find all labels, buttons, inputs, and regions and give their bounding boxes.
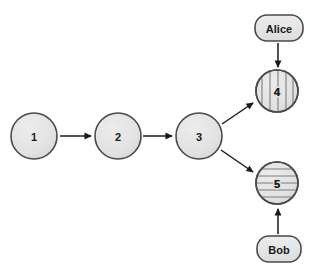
commit-node-2[interactable]: 2 bbox=[95, 113, 141, 159]
commit-node-2-label: 2 bbox=[115, 131, 121, 143]
edge-node3-to-node5 bbox=[221, 150, 253, 172]
edge-node3-to-node4 bbox=[222, 103, 253, 124]
commit-node-1[interactable]: 1 bbox=[11, 113, 57, 159]
diagram-svg: 1 2 3 4 4 bbox=[0, 0, 315, 267]
commit-node-5-label: 5 bbox=[274, 178, 280, 190]
actor-node-alice[interactable]: Alice bbox=[255, 15, 303, 41]
actor-alice-label: Alice bbox=[266, 23, 292, 35]
diagram-canvas: 1 2 3 4 4 bbox=[0, 0, 315, 267]
commit-node-1-label: 1 bbox=[31, 131, 37, 143]
commit-node-4[interactable]: 4 4 bbox=[256, 68, 298, 114]
commit-node-5[interactable]: 5 5 bbox=[254, 162, 300, 204]
commit-node-4-label: 4 bbox=[274, 86, 281, 98]
actor-bob-label: Bob bbox=[268, 244, 290, 256]
commit-node-3-label: 3 bbox=[196, 131, 202, 143]
commit-node-3[interactable]: 3 bbox=[176, 113, 222, 159]
edge-group bbox=[60, 43, 278, 234]
actor-node-bob[interactable]: Bob bbox=[257, 236, 301, 262]
